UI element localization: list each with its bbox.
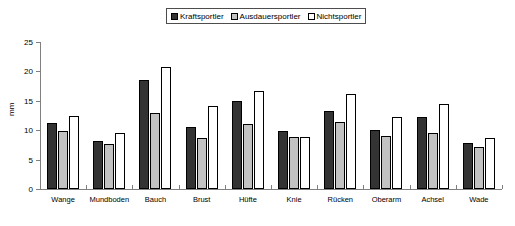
- bar-group: Achsel: [410, 42, 456, 189]
- bar: [104, 144, 114, 189]
- bar-chart: KraftsportlerAusdauersportlerNichtsportl…: [0, 0, 515, 226]
- x-axis-category-label: Mundboden: [86, 195, 132, 204]
- bar-group: Bauch: [132, 42, 178, 189]
- legend-entry: Kraftsportler: [171, 12, 224, 21]
- bar: [428, 133, 438, 189]
- y-axis-title: mm: [7, 103, 16, 116]
- bar-group: Brust: [179, 42, 225, 189]
- x-axis-category-label: Hüfte: [225, 195, 271, 204]
- bar: [139, 80, 149, 189]
- bar-group: Wange: [40, 42, 86, 189]
- legend-entry: Ausdauersportler: [231, 12, 301, 21]
- plot-area: 0510152025WangeMundbodenBauchBrustHüfteK…: [40, 42, 502, 189]
- legend-label: Ausdauersportler: [240, 12, 301, 21]
- bar: [197, 138, 207, 189]
- x-axis-tick: [40, 185, 41, 189]
- bar: [208, 106, 218, 189]
- bar: [232, 101, 242, 189]
- legend-swatch-icon: [308, 13, 315, 20]
- chart-legend: KraftsportlerAusdauersportlerNichtsportl…: [166, 8, 366, 24]
- x-axis-category-label: Achsel: [410, 195, 456, 204]
- bar: [93, 141, 103, 189]
- x-axis-tick: [502, 185, 503, 189]
- x-axis-line: [40, 189, 502, 190]
- bar: [381, 136, 391, 190]
- legend-label: Nichtsportler: [317, 12, 362, 21]
- x-axis-category-label: Rücken: [317, 195, 363, 204]
- bar: [485, 138, 495, 189]
- y-axis-tick-label: 0: [29, 185, 33, 194]
- x-axis-category-label: Wade: [456, 195, 502, 204]
- legend-swatch-icon: [231, 13, 238, 20]
- legend-entry: Nichtsportler: [308, 12, 362, 21]
- y-axis-tick-label: 25: [24, 38, 33, 47]
- legend-swatch-icon: [171, 13, 178, 20]
- bar: [278, 131, 288, 189]
- bar: [254, 91, 264, 189]
- bar-group: Oberarm: [363, 42, 409, 189]
- bar-group: Hüfte: [225, 42, 271, 189]
- bar: [300, 137, 310, 189]
- bar: [115, 133, 125, 189]
- y-axis-tick-label: 20: [24, 67, 33, 76]
- y-axis-tick-label: 5: [29, 155, 33, 164]
- x-axis-category-label: Bauch: [132, 195, 178, 204]
- bar-group: Mundboden: [86, 42, 132, 189]
- bar: [243, 124, 253, 189]
- bar: [58, 131, 68, 189]
- bar: [324, 111, 334, 189]
- bar: [370, 130, 380, 189]
- y-axis-tick-label: 10: [24, 126, 33, 135]
- y-axis-tick-label: 15: [24, 96, 33, 105]
- bar: [69, 116, 79, 189]
- bar: [346, 94, 356, 189]
- bar: [417, 117, 427, 189]
- bar: [150, 113, 160, 189]
- bar: [47, 123, 57, 189]
- bar-group: Wade: [456, 42, 502, 189]
- bar-group: Knie: [271, 42, 317, 189]
- legend-label: Kraftsportler: [180, 12, 224, 21]
- bar-group: Rücken: [317, 42, 363, 189]
- bar: [474, 147, 484, 189]
- bar: [161, 67, 171, 189]
- y-axis-tick: 0: [36, 189, 40, 190]
- x-axis-category-label: Brust: [179, 195, 225, 204]
- bar: [335, 122, 345, 189]
- bar: [392, 117, 402, 189]
- bar: [439, 104, 449, 189]
- bar: [463, 143, 473, 189]
- bar: [186, 127, 196, 189]
- x-axis-category-label: Oberarm: [363, 195, 409, 204]
- x-axis-category-label: Wange: [40, 195, 86, 204]
- bar: [289, 137, 299, 189]
- x-axis-category-label: Knie: [271, 195, 317, 204]
